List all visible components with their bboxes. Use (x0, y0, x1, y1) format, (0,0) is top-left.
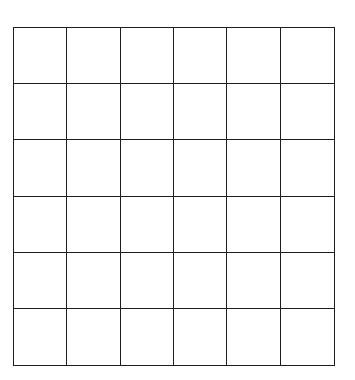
grid-cell-r2-c3 (121, 84, 174, 140)
grid-cell-r1-c6 (281, 28, 334, 84)
grid-cell-r4-c6 (281, 197, 334, 253)
grid-cell-r3-c2 (67, 140, 120, 196)
empty-grid (13, 27, 335, 366)
grid-cell-r1-c4 (174, 28, 227, 84)
grid-cell-r6-c4 (174, 309, 227, 365)
grid-cell-r2-c1 (14, 84, 67, 140)
grid-cell-r5-c5 (227, 253, 280, 309)
grid-cell-r6-c5 (227, 309, 280, 365)
grid-cell-r3-c1 (14, 140, 67, 196)
grid-cell-r6-c3 (121, 309, 174, 365)
grid-cell-r2-c4 (174, 84, 227, 140)
grid-cell-r5-c2 (67, 253, 120, 309)
grid-cell-r2-c5 (227, 84, 280, 140)
grid-cell-r6-c2 (67, 309, 120, 365)
grid-cell-r6-c6 (281, 309, 334, 365)
grid-cell-r1-c1 (14, 28, 67, 84)
grid-cell-r4-c2 (67, 197, 120, 253)
grid-cell-r4-c4 (174, 197, 227, 253)
grid-cell-r1-c5 (227, 28, 280, 84)
grid-cell-r4-c5 (227, 197, 280, 253)
grid-cell-r3-c5 (227, 140, 280, 196)
grid-cell-r1-c2 (67, 28, 120, 84)
grid-cell-r3-c6 (281, 140, 334, 196)
grid-cell-r5-c4 (174, 253, 227, 309)
grid-cell-r5-c3 (121, 253, 174, 309)
grid-cell-r2-c6 (281, 84, 334, 140)
grid-cell-r4-c1 (14, 197, 67, 253)
grid-cell-r3-c4 (174, 140, 227, 196)
grid-cell-r6-c1 (14, 309, 67, 365)
grid-cell-r1-c3 (121, 28, 174, 84)
grid-cell-r2-c2 (67, 84, 120, 140)
grid-cell-r4-c3 (121, 197, 174, 253)
grid-cell-r3-c3 (121, 140, 174, 196)
grid-cell-r5-c6 (281, 253, 334, 309)
grid-cell-r5-c1 (14, 253, 67, 309)
